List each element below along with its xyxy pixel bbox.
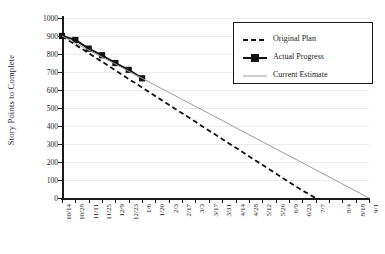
- legend-label-current-estimate: Current Estimate: [273, 70, 327, 79]
- y-tick-mark: [58, 162, 62, 163]
- legend-item-current-estimate: Current Estimate: [242, 65, 366, 83]
- y-tick-mark: [58, 54, 62, 55]
- legend-item-original-plan: Original Plan: [242, 29, 366, 47]
- thin-gray-line-key: [242, 68, 268, 80]
- y-tick-mark: [58, 180, 62, 181]
- y-tick-mark: [58, 126, 62, 127]
- y-tick-mark: [58, 90, 62, 91]
- y-tick-mark: [58, 144, 62, 145]
- dashed-line-key: [242, 32, 268, 44]
- y-tick-mark: [58, 18, 62, 19]
- y-tick-mark: [58, 36, 62, 37]
- legend-item-actual-progress: Actual Progress: [242, 47, 366, 65]
- y-tick-mark: [58, 108, 62, 109]
- legend-label-actual-progress: Actual Progress: [273, 52, 324, 61]
- y-tick-mark: [58, 198, 62, 199]
- solid-square-line-key: [242, 50, 268, 62]
- y-tick-mark: [58, 72, 62, 73]
- chart-legend: Original Plan Actual Progress Current Es…: [233, 22, 373, 84]
- legend-label-original-plan: Original Plan: [273, 34, 316, 43]
- burndown-chart: Story Points to Complete 010020030040050…: [0, 0, 385, 254]
